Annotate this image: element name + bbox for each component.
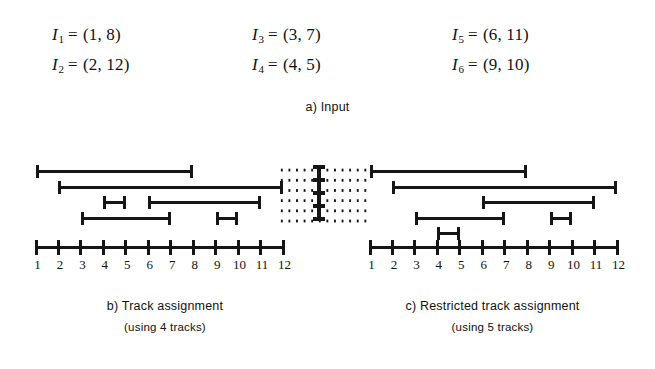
axis-tick-label: 12 [608,257,630,273]
axis-tick-label: 10 [229,257,251,273]
axis-tick-label: 5 [450,257,472,273]
equals-sign: = [464,55,483,74]
axis-tick-label: 3 [71,257,93,273]
axis-tick [436,240,439,255]
caption-panel-c-line1: c) Restricted track assignment [330,296,655,317]
axis-tick [369,240,372,255]
axis-tick [391,240,394,255]
axis-tick [169,240,172,255]
axis-tick [571,240,574,255]
interval-bar-I5 [148,201,260,204]
panel-restricted-track-assignment: 123456789101112 [330,150,655,285]
definition-row: I5=(6, 11) [452,22,530,52]
axis-tick [35,240,38,255]
interval-bar-I5 [482,201,594,204]
axis-tick [192,240,195,255]
axis-tick-label: 10 [563,257,585,273]
axis-tick-label: 9 [206,257,228,273]
caption-panel-c-line2: (using 5 tracks) [330,317,655,338]
definition-row: I4=(4, 5) [252,52,321,82]
axis-tick [526,240,529,255]
definition-row: I3=(3, 7) [252,22,321,52]
axis-tick-label: 11 [251,257,273,273]
axis-tick-label: 7 [161,257,183,273]
interval-bar-I2 [58,186,283,189]
restricted-region-barrier [317,165,321,221]
axis-tick-label: 2 [383,257,405,273]
definition-row: I1=(1, 8) [52,22,130,52]
equals-sign: = [264,55,283,74]
interval-bar-I2 [392,186,617,189]
definition-column-2: I3=(3, 7) I4=(4, 5) [252,22,321,82]
caption-part-a: a) Input [0,100,655,114]
axis-tick-label: 12 [274,257,296,273]
axis-tick-label: 1 [27,257,49,273]
axis-tick-label: 6 [139,257,161,273]
axis-tick-label: 4 [94,257,116,273]
interval-pair: (3, 7) [283,25,321,44]
interval-bar-I6 [550,217,572,220]
axis-tick [124,240,127,255]
interval-pair: (2, 12) [83,55,130,74]
axis-tick-label: 4 [428,257,450,273]
axis-tick [413,240,416,255]
interval-pair: (6, 11) [483,25,529,44]
track-rows-c [330,150,655,230]
axis-tick-label: 8 [518,257,540,273]
equals-sign: = [64,55,83,74]
axis-line [370,246,617,249]
axis-tick [147,240,150,255]
barrier-notch [313,204,325,208]
interval-name: I [452,25,458,44]
axis-tick-label: 9 [540,257,562,273]
axis-tick-label: 2 [49,257,71,273]
interval-name: I [52,25,58,44]
equals-sign: = [264,25,283,44]
definition-column-3: I5=(6, 11) I6=(9, 10) [452,22,530,82]
interval-pair: (9, 10) [483,55,530,74]
number-axis-b: 123456789101112 [36,238,283,272]
axis-tick-label: 11 [585,257,607,273]
interval-pair: (4, 5) [283,55,321,74]
definition-row: I2=(2, 12) [52,52,130,82]
axis-tick [259,240,262,255]
axis-tick [458,240,461,255]
figure-root: I1=(1, 8) I2=(2, 12) I3=(3, 7) I4=(4, 5)… [0,0,655,369]
axis-tick [214,240,217,255]
axis-tick [57,240,60,255]
interval-bar-I1 [370,170,527,173]
caption-panel-b-line2: (using 4 tracks) [0,317,330,338]
interval-pair: (1, 8) [83,25,121,44]
interval-bar-I4 [103,201,125,204]
axis-tick [237,240,240,255]
barrier-notch [313,191,325,195]
number-axis-c: 123456789101112 [370,238,617,272]
caption-panel-c: c) Restricted track assignment (using 5 … [330,296,655,338]
definition-row: I6=(9, 10) [452,52,530,82]
interval-bar-I3 [415,217,505,220]
axis-tick-label: 1 [361,257,383,273]
interval-bar-I1 [36,170,193,173]
definition-column-1: I1=(1, 8) I2=(2, 12) [52,22,130,82]
axis-tick [102,240,105,255]
axis-tick [616,240,619,255]
caption-panel-b: b) Track assignment (using 4 tracks) [0,296,330,338]
interval-bar-I4 [437,232,459,235]
interval-definitions: I1=(1, 8) I2=(2, 12) I3=(3, 7) I4=(4, 5)… [0,22,655,84]
axis-tick-label: 8 [184,257,206,273]
barrier-notch [313,217,325,221]
caption-panel-b-line1: b) Track assignment [0,296,330,317]
axis-tick-label: 5 [116,257,138,273]
axis-line [36,246,283,249]
interval-name: I [52,55,58,74]
axis-tick-label: 6 [473,257,495,273]
interval-name: I [252,25,258,44]
interval-name: I [252,55,258,74]
barrier-notch [313,178,325,182]
axis-tick [548,240,551,255]
barrier-notch [313,165,325,169]
interval-name: I [452,55,458,74]
axis-tick [282,240,285,255]
axis-tick-label: 3 [405,257,427,273]
axis-tick [481,240,484,255]
